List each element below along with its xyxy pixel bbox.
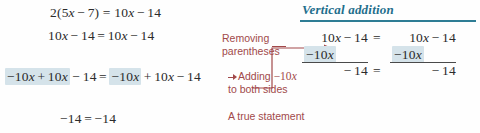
va-top-left-coefficient: 10 — [321, 30, 335, 45]
va-sum-left-constant: 14 — [354, 63, 368, 78]
step1-variable-1: x — [69, 5, 75, 20]
va-top-left-constant: 14 — [354, 30, 368, 45]
step1-minus-2: − — [134, 5, 147, 20]
arrow-right-icon — [228, 74, 237, 81]
va-addend-right-highlight: −10x — [392, 46, 424, 63]
step1-minus-1: − — [75, 5, 88, 20]
step2-rhs-constant: 14 — [141, 28, 155, 43]
step3-plus-2: + — [141, 69, 154, 84]
step1-constant-1: 7) = — [88, 5, 111, 20]
step2-minus-2: − — [128, 28, 141, 43]
annotation-adding-term: Adding −10x to both sides — [228, 70, 297, 95]
va-row-addend: −10x −10x — [296, 47, 480, 63]
derivation-steps: 2(5x−7) = 10x−14 10x−14=10x−14 −10x+10x−… — [0, 0, 232, 133]
step2-lhs-coefficient: 10 — [48, 28, 62, 43]
va-sum-left-minus: − — [341, 63, 354, 78]
va-addend-left-highlight: −10x — [304, 46, 336, 63]
va-top-left-expression: 10x−14 — [296, 30, 370, 46]
va-top-right-coefficient: 10 — [409, 30, 423, 45]
step3-minus-2: − — [174, 69, 187, 84]
step3-rhs-coefficient: 10 — [154, 69, 168, 84]
step2-equals: = — [95, 28, 108, 43]
step2-minus-1: − — [68, 28, 81, 43]
equation-step-1: 2(5x−7) = 10x−14 — [50, 5, 161, 21]
annotation-removing-line-1: Removing — [222, 32, 280, 45]
step3-lhs-constant: 14 — [83, 69, 97, 84]
vertical-addition-heading: Vertical addition — [302, 2, 394, 18]
step2-rhs-coefficient: 10 — [108, 28, 122, 43]
step3-neg-coefficient: −10 — [7, 69, 29, 84]
va-top-left-minus: − — [341, 30, 354, 45]
step3-variable-1: x — [29, 69, 35, 84]
step2-variable-2: x — [122, 28, 128, 43]
step3-minus-1: − — [70, 69, 83, 84]
leader-line-parentheses — [272, 46, 286, 47]
va-addend-right: −10x — [384, 47, 458, 63]
va-bottom-equals: = — [370, 63, 384, 79]
annotation-adding-coefficient: −10 — [274, 70, 292, 82]
step3-pos-coefficient: 10 — [48, 69, 62, 84]
annotation-removing-parentheses: Removing parentheses — [222, 32, 280, 57]
annotation-true-statement: A true statement — [228, 110, 304, 123]
va-top-right-expression: 10x−14 — [384, 30, 458, 46]
va-row-top: 10x−14 = 10x−14 — [296, 30, 480, 47]
va-row-sum: −14 = −14 — [296, 63, 480, 80]
step3-rhs-constant: 14 — [187, 69, 201, 84]
step3-rhs-neg-coefficient: −10 — [111, 69, 133, 84]
step3-equals: = — [97, 69, 110, 84]
va-addend-right-variable: x — [416, 47, 422, 62]
equation-step-3: −10x+10x−14=−10x+10x−14 — [5, 69, 201, 85]
annotation-adding-line-1: Adding −10x — [228, 70, 297, 83]
step2-lhs-constant: 14 — [81, 28, 95, 43]
vertical-addition-panel: Vertical addition 10x−14 = 10x−14 −10x −… — [296, 0, 480, 133]
equation-step-2: 10x−14=10x−14 — [48, 28, 155, 44]
va-sum-right-constant: 14 — [442, 63, 456, 78]
equation-step-4: −14=−14 — [60, 111, 116, 127]
va-addend-left-variable: x — [328, 47, 334, 62]
step4-lhs: −14 — [60, 111, 82, 126]
highlight-left-terms: −10x+10x — [5, 68, 70, 85]
va-addend-right-coefficient: −10 — [394, 47, 416, 62]
step3-variable-3: x — [133, 69, 139, 84]
va-top-equals: = — [370, 30, 384, 46]
step1-rhs-coefficient: 10 — [114, 5, 128, 20]
figure-canvas: 2(5x−7) = 10x−14 10x−14=10x−14 −10x+10x−… — [0, 0, 480, 133]
annotation-adding-math: −10x — [274, 70, 297, 82]
step3-variable-2: x — [62, 69, 68, 84]
highlight-right-term: −10x — [109, 68, 141, 85]
step3-plus-1: + — [35, 69, 48, 84]
va-addend-left-coefficient: −10 — [306, 47, 328, 62]
step4-rhs: −14 — [95, 111, 117, 126]
va-top-right-minus: − — [429, 30, 442, 45]
va-sum-right-minus: − — [429, 63, 442, 78]
va-sum-right: −14 — [384, 63, 458, 79]
heading-underline — [300, 20, 476, 22]
step1-coefficient: 2(5 — [50, 5, 69, 20]
annotation-adding-line-2: to both sides — [228, 83, 297, 96]
va-sum-left: −14 — [296, 63, 370, 79]
annotation-adding-label: Adding — [238, 70, 271, 82]
vertical-addition-grid: 10x−14 = 10x−14 −10x −10x −14 = — [296, 30, 480, 80]
step1-constant-2: 14 — [147, 5, 161, 20]
va-addend-left: −10x — [296, 47, 370, 63]
step4-equals: = — [82, 111, 95, 126]
va-top-right-constant: 14 — [442, 30, 456, 45]
